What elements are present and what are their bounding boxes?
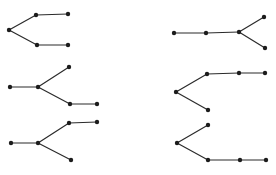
tree-top-right-vertex-dot-3 xyxy=(262,15,266,19)
tree-top-right-vertex-dot-4 xyxy=(263,46,267,50)
tree-bottom-right-vertex-dot-3 xyxy=(238,158,242,162)
tree-bottom-left-vertex-dot-1 xyxy=(36,141,40,145)
tree-middle-right-vertex-dot-0 xyxy=(174,90,178,94)
tree-middle-right-vertex-dot-3 xyxy=(263,71,267,75)
tree-bottom-left-vertex-dot-2 xyxy=(67,121,71,125)
tree-bottom-right-vertex-dot-0 xyxy=(206,123,210,127)
tree-bottom-left-vertex-dot-3 xyxy=(95,120,99,124)
tree-middle-left-vertex-dot-3 xyxy=(68,102,72,106)
tree-middle-left-vertex-dot-1 xyxy=(36,85,40,89)
tree-middle-left-vertex-dot-4 xyxy=(95,102,99,106)
diagram-canvas xyxy=(0,0,276,175)
tree-top-right-vertex-dot-2 xyxy=(237,30,241,34)
tree-bottom-right-vertex-dot-2 xyxy=(206,158,210,162)
tree-middle-right-vertex-dot-4 xyxy=(206,108,210,112)
canvas-background xyxy=(0,0,276,175)
tree-top-left-vertex-dot-2 xyxy=(66,12,70,16)
tree-bottom-left-vertex-dot-4 xyxy=(69,158,73,162)
tree-top-right-vertex-dot-1 xyxy=(204,31,208,35)
tree-top-left-vertex-dot-0 xyxy=(7,28,11,32)
tree-bottom-left-vertex-dot-0 xyxy=(9,141,13,145)
tree-middle-left-vertex-dot-2 xyxy=(67,65,71,69)
tree-top-left-vertex-dot-1 xyxy=(34,13,38,17)
tree-middle-right-vertex-dot-2 xyxy=(237,71,241,75)
tree-diagrams-figure xyxy=(0,0,276,175)
tree-top-right-vertex-dot-0 xyxy=(172,31,176,35)
tree-middle-left-vertex-dot-0 xyxy=(8,85,12,89)
tree-bottom-right-vertex-dot-4 xyxy=(264,158,268,162)
tree-middle-right-vertex-dot-1 xyxy=(205,72,209,76)
tree-bottom-right-vertex-dot-1 xyxy=(175,141,179,145)
tree-top-left-vertex-dot-3 xyxy=(35,43,39,47)
tree-top-left-vertex-dot-4 xyxy=(66,43,70,47)
